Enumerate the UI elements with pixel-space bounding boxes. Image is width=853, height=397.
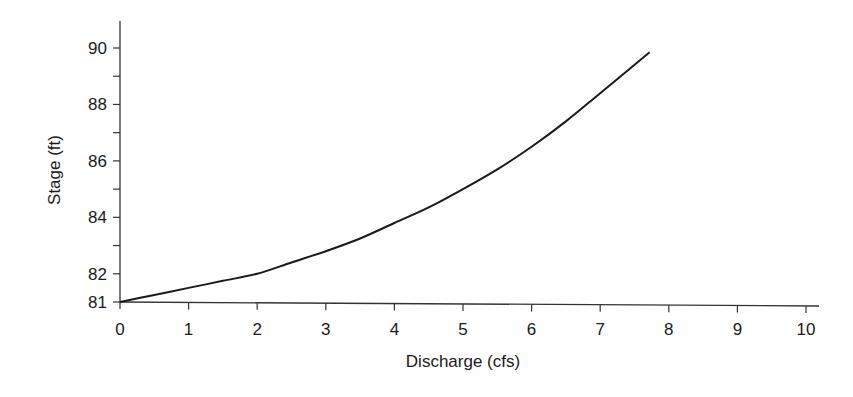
x-tick-label: 9	[733, 320, 742, 339]
x-tick-label: 10	[797, 320, 816, 339]
y-tick-label: 82	[88, 265, 107, 284]
x-axis-line	[120, 302, 819, 306]
x-tick-label: 3	[321, 320, 330, 339]
x-tick-label: 7	[595, 320, 604, 339]
x-tick-label: 5	[458, 320, 467, 339]
x-tick-label: 1	[184, 320, 193, 339]
y-ticks: 818284868890	[88, 39, 120, 312]
x-tick-label: 6	[527, 320, 536, 339]
x-tick-label: 2	[252, 320, 261, 339]
x-tick-label: 4	[390, 320, 399, 339]
y-tick-label: 90	[88, 39, 107, 58]
y-axis-title: Stage (ft)	[45, 135, 64, 205]
y-tick-label: 88	[88, 95, 107, 114]
y-tick-label: 81	[88, 293, 107, 312]
x-ticks: 012345678910	[115, 302, 815, 339]
y-tick-label: 86	[88, 152, 107, 171]
x-axis-title: Discharge (cfs)	[406, 352, 520, 371]
y-tick-label: 84	[88, 208, 107, 227]
y-axis: 818284868890	[88, 21, 120, 312]
x-tick-label: 0	[115, 320, 124, 339]
rating-curve-line	[120, 52, 650, 302]
x-axis: 012345678910	[115, 302, 819, 339]
x-tick-label: 8	[664, 320, 673, 339]
rating-curve-chart: 818284868890 012345678910 Discharge (cfs…	[0, 0, 853, 397]
